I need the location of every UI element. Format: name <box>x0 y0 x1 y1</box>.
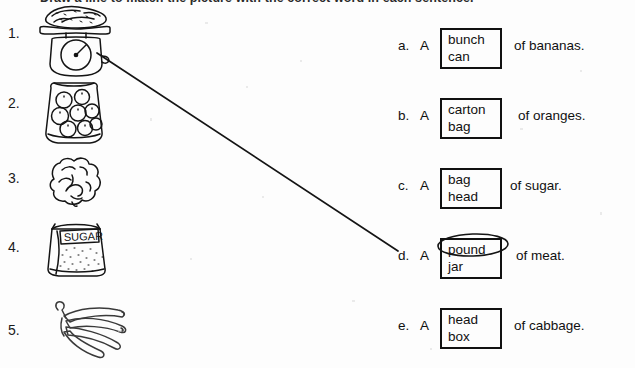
sugar-package-text: SUGAR <box>64 230 104 243</box>
choice-letter-a: a. <box>398 38 409 53</box>
choice-article-b: A <box>420 108 429 123</box>
worksheet-page: Draw a line to match the picture with th… <box>0 0 635 368</box>
choice-option-c-2[interactable]: head <box>448 188 494 205</box>
choice-letter-d: d. <box>398 248 409 263</box>
worksheet-instructions: Draw a line to match the picture with th… <box>40 0 620 5</box>
choice-box-c[interactable]: bag head <box>440 168 502 209</box>
choice-row-b[interactable]: b. A carton bag of oranges. <box>398 96 635 142</box>
choice-article-a: A <box>420 38 429 53</box>
choice-option-b-1[interactable]: carton <box>448 101 494 118</box>
choice-box-d[interactable]: pound jar <box>440 238 502 279</box>
item-number-4: 4. <box>8 239 20 255</box>
choice-option-a-2[interactable]: can <box>448 48 494 65</box>
item-number-1: 1. <box>8 25 20 41</box>
choice-letter-c: c. <box>398 178 409 193</box>
choice-article-e: A <box>420 318 429 333</box>
choice-option-e-2[interactable]: box <box>448 328 494 345</box>
choice-article-c: A <box>420 178 429 193</box>
choice-box-e[interactable]: head box <box>440 308 502 349</box>
choice-tail-b: of oranges. <box>518 108 586 123</box>
choice-tail-e: of cabbage. <box>514 318 585 333</box>
choice-tail-c: of sugar. <box>510 178 562 193</box>
kitchen-scale-with-meat-icon <box>30 2 120 84</box>
item-number-2: 2. <box>8 95 20 111</box>
bag-of-sugar-icon: SUGAR <box>38 219 114 281</box>
choice-option-a-1[interactable]: bunch <box>448 31 494 48</box>
item-number-3: 3. <box>8 170 20 186</box>
choice-tail-a: of bananas. <box>514 38 585 53</box>
item-number-5: 5. <box>8 322 20 338</box>
choice-row-e[interactable]: e. A head box of cabbage. <box>398 306 635 352</box>
choice-option-e-1[interactable]: head <box>448 311 494 328</box>
bunch-of-bananas-icon <box>42 298 138 366</box>
choice-row-a[interactable]: a. A bunch can of bananas. <box>398 26 635 72</box>
choice-option-b-2[interactable]: bag <box>448 118 494 135</box>
bag-of-oranges-icon <box>36 80 114 148</box>
choice-box-b[interactable]: carton bag <box>440 98 502 139</box>
choice-row-d[interactable]: d. A pound jar of meat. <box>398 236 635 282</box>
choice-row-c[interactable]: c. A bag head of sugar. <box>398 166 635 212</box>
choice-option-d-2[interactable]: jar <box>448 258 494 275</box>
choice-tail-d: of meat. <box>516 248 565 263</box>
choice-option-c-1[interactable]: bag <box>448 171 494 188</box>
head-of-cabbage-icon <box>42 155 108 211</box>
choice-option-d-1[interactable]: pound <box>448 241 494 258</box>
choice-box-a[interactable]: bunch can <box>440 28 502 69</box>
choice-letter-e: e. <box>398 318 409 333</box>
choice-letter-b: b. <box>398 108 409 123</box>
choice-article-d: A <box>420 248 429 263</box>
